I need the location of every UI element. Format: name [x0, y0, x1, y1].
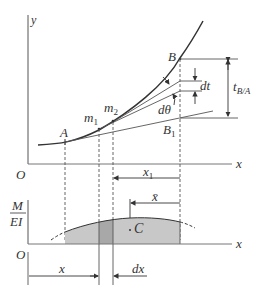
dt-label: dt — [200, 79, 210, 92]
point-b-label: B — [168, 50, 176, 63]
centroid-label: C — [134, 222, 143, 236]
x1-subscript: 1 — [149, 171, 154, 181]
x-label: x — [59, 262, 65, 275]
dtheta-arc — [173, 94, 175, 105]
dx-strip — [99, 220, 113, 245]
lower-x-axis-label: x — [236, 237, 242, 250]
mei-denominator: EI — [10, 215, 22, 228]
moment-curve-dashed-left — [51, 232, 65, 240]
b1-subscript: 1 — [171, 129, 176, 139]
lower-origin-label: O — [16, 248, 25, 261]
m2-subscript: 2 — [113, 107, 118, 117]
moment-area-diagram: y x O A m1 m2 B B1 dt dθ tB/A x1 M EI O … — [0, 0, 263, 296]
diagram-graphics — [0, 0, 263, 296]
point-a-label: A — [60, 126, 68, 139]
b1-text: B — [163, 122, 171, 137]
dx-label: dx — [132, 262, 144, 275]
tba-label: tB/A — [233, 80, 250, 96]
xbar-label: x̄ — [152, 190, 158, 203]
mei-numerator: M — [12, 199, 23, 212]
point-m1-label: m1 — [84, 111, 98, 127]
m1-subscript: 1 — [93, 117, 98, 127]
m2-text: m — [104, 100, 113, 115]
upper-y-axis-label: y — [31, 14, 36, 26]
x1-label: x1 — [143, 165, 153, 181]
dtheta-label: dθ — [158, 103, 171, 116]
centroid-dot — [129, 229, 131, 231]
moment-curve-dashed-right — [180, 222, 195, 228]
upper-x-axis-label: x — [236, 157, 242, 170]
tba-subscript: B/A — [237, 86, 251, 96]
point-m2 — [112, 120, 115, 123]
m1-text: m — [84, 110, 93, 125]
moment-area-shade — [65, 218, 180, 244]
point-m2-label: m2 — [104, 101, 118, 117]
upper-origin-label: O — [16, 168, 25, 181]
point-b1-label: B1 — [163, 123, 176, 139]
